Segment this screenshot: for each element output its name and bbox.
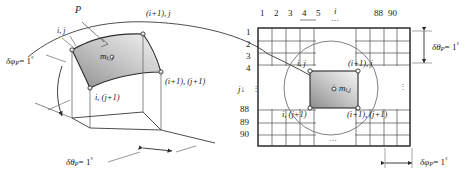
interior-ellipsis-right: ⋮ — [399, 83, 407, 91]
base-edge-extend — [161, 130, 215, 143]
col-axis-label-i: i — [334, 7, 337, 16]
col-header-88: 88 — [374, 9, 383, 18]
label-delta-phi-grid: δφP= 1° — [420, 157, 448, 168]
cell-corner-i1j — [356, 69, 360, 73]
col-header-4: 4 — [302, 9, 307, 18]
base-edge-bottom — [90, 128, 161, 130]
row-header-4: 4 — [246, 64, 251, 73]
interior-ellipsis-bottom: ⋯ — [329, 137, 337, 145]
cell-corner-ij — [308, 69, 312, 73]
delta-theta-value-grid: = 1 — [445, 42, 457, 52]
delta-theta-dimension-3d — [143, 148, 172, 151]
corner-hatch-b — [70, 36, 76, 46]
delta-phi-value-grid: = 1 — [433, 157, 445, 167]
cell-corner-ij1 — [308, 106, 312, 110]
patch-face — [72, 34, 161, 88]
surface-patch-3d — [28, 22, 268, 162]
label-mass-3d: mi, j — [100, 52, 113, 62]
label-corner-ij-3d: i, j — [57, 27, 65, 35]
delta-theta-symbol-3d: δθ — [66, 157, 75, 167]
delta-phi-tick-a — [46, 55, 66, 62]
label-cell-i1j: (i+1), j — [348, 59, 373, 68]
col-header-3: 3 — [288, 9, 293, 18]
delta-phi-degree-3d: ° — [31, 55, 34, 62]
row-header-90: 90 — [240, 130, 249, 139]
label-mass-grid: mi,j — [339, 84, 351, 94]
col-header-1: 1 — [260, 9, 265, 18]
mass-subscript-grid: i,j — [346, 86, 351, 93]
delta-theta-degree-3d: ° — [90, 156, 93, 163]
interior-ellipsis-left: ⋮ — [330, 83, 338, 91]
label-delta-theta-grid: δθP= 1° — [432, 42, 459, 53]
label-cell-i1j1: (i+1), (j+1) — [347, 110, 387, 119]
label-cell-ij1: i, (j+1) — [282, 110, 307, 119]
delta-phi-symbol-grid: δφ — [420, 157, 429, 167]
delta-theta-degree-grid: ° — [456, 41, 459, 48]
grid-panel — [258, 20, 432, 168]
label-delta-phi-3d: δφP= 1° — [6, 56, 34, 67]
label-corner-ij1-3d: i, (j+1) — [95, 93, 120, 102]
row-header-88: 88 — [240, 105, 249, 114]
row-ellipsis: ⋮ — [252, 85, 260, 93]
label-corner-i1j1-3d: (i+1), (j+1) — [165, 77, 205, 86]
label-cell-ij: i, j — [297, 59, 306, 68]
delta-theta-leader-3d — [108, 152, 140, 162]
col-header-90: 90 — [388, 9, 397, 18]
mass-subscript-3d: i, j — [107, 54, 114, 61]
col-header-5: 5 — [316, 9, 321, 18]
delta-theta-leader2-3d — [176, 146, 196, 152]
col-header-2: 2 — [274, 9, 279, 18]
row-header-1: 1 — [246, 28, 251, 37]
row-header-89: 89 — [240, 118, 249, 127]
base-edge-extend-left — [35, 103, 72, 118]
label-delta-theta-3d: δθP= 1° — [66, 157, 93, 168]
label-p: P — [75, 5, 81, 15]
delta-phi-value-3d: = 1 — [19, 56, 31, 66]
col-ellipsis: ⋯ — [331, 17, 339, 25]
row-axis-label-j: j↓ — [238, 85, 245, 94]
delta-phi-arc — [58, 66, 63, 116]
base-edge-left — [72, 118, 90, 128]
row-axis-arrow: ↓ — [241, 84, 246, 94]
base-edge-top — [72, 112, 143, 118]
delta-theta-value-3d: = 1 — [79, 157, 91, 167]
label-corner-i1j-3d: (i+1), j — [146, 9, 171, 18]
delta-phi-degree-grid: ° — [445, 156, 448, 163]
base-edge-right — [143, 112, 161, 130]
delta-phi-tick-b — [48, 100, 70, 110]
row-header-3: 3 — [246, 52, 251, 61]
delta-phi-symbol-3d: δφ — [6, 56, 15, 66]
figure-root: P i, j (i+1), j i, (j+1) (i+1), (j+1) mi… — [0, 0, 474, 178]
row-header-2: 2 — [246, 40, 251, 49]
delta-theta-symbol-grid: δθ — [432, 42, 441, 52]
